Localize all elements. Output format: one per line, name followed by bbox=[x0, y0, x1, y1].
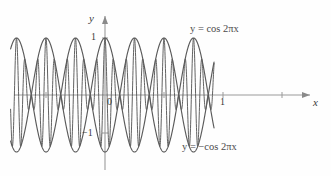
origin-label: 0 bbox=[107, 96, 112, 107]
x-axis-arrowhead bbox=[302, 92, 310, 98]
figure-canvas: y x 1 −1 0 1 y = cos 2πx y = −cos 2πx bbox=[0, 0, 331, 176]
plot-svg bbox=[0, 0, 331, 176]
x-axis-label: x bbox=[313, 96, 318, 108]
lower-envelope-label: y = −cos 2πx bbox=[182, 141, 237, 152]
y-tick-label-minus-one: −1 bbox=[82, 127, 93, 138]
y-tick-label-one: 1 bbox=[91, 31, 96, 42]
upper-envelope-label: y = cos 2πx bbox=[190, 23, 239, 34]
y-axis-label: y bbox=[89, 12, 94, 24]
y-axis-arrowhead bbox=[102, 16, 108, 24]
x-tick-label-one: 1 bbox=[220, 96, 225, 107]
